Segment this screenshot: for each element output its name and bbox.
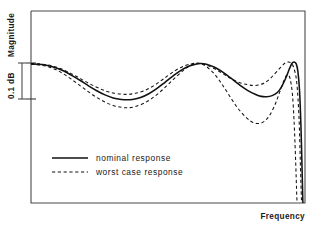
curve-nominal-response (31, 62, 303, 215)
legend-label-nominal: nominal response (96, 153, 171, 163)
curve-worst-case-lower (31, 63, 298, 215)
legend: nominal response worst case response (52, 153, 183, 177)
frequency-response-chart: Magnitude 0.1 dB Frequency nominal respo… (0, 0, 324, 229)
scale-bar (18, 63, 26, 99)
frequency-response-figure: Magnitude 0.1 dB Frequency nominal respo… (0, 0, 324, 229)
y-axis-title: Magnitude (7, 13, 16, 57)
curve-worst-case-upper (31, 62, 302, 215)
scale-annotation-label: 0.1 dB (7, 72, 16, 99)
data-curves (31, 62, 303, 215)
x-axis-title: Frequency (260, 212, 305, 221)
legend-label-worst-case: worst case response (95, 167, 183, 177)
